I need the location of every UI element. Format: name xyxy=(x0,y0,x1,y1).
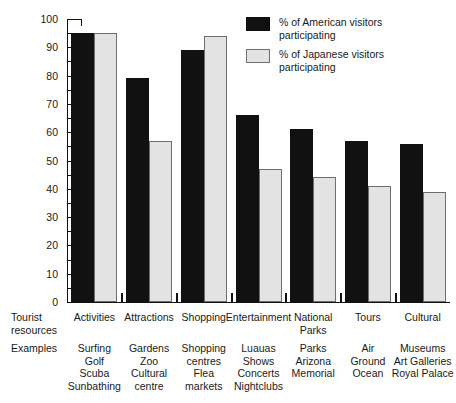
bar-american-4 xyxy=(290,129,313,302)
bar-american-5 xyxy=(345,141,368,302)
bars-layer xyxy=(0,0,456,310)
bar-japanese-6 xyxy=(423,192,446,302)
bar-american-3 xyxy=(236,115,259,302)
bar-japanese-2 xyxy=(204,36,227,302)
bar-japanese-0 xyxy=(94,33,117,302)
bar-japanese-3 xyxy=(259,169,282,302)
examples-label-6: Museums Art Galleries Royal Palace xyxy=(387,342,456,380)
bar-chart: % of American visitors participating % o… xyxy=(0,0,456,403)
bar-japanese-1 xyxy=(149,141,172,302)
category-label-table: Tourist resources Examples ActivitiesSur… xyxy=(0,306,456,403)
category-label-6: Cultural xyxy=(387,311,456,324)
bar-american-6 xyxy=(400,144,423,302)
bar-japanese-5 xyxy=(368,186,391,302)
bar-american-0 xyxy=(71,33,94,302)
bar-japanese-4 xyxy=(313,177,336,302)
bar-american-2 xyxy=(181,50,204,302)
plot-area: 1009080706050403020100 xyxy=(0,0,456,310)
bar-american-1 xyxy=(126,78,149,302)
